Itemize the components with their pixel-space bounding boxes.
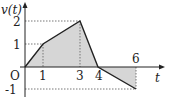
velocity-chart: v(t) t O 2 1 -1 1 3 4 6 <box>0 0 172 99</box>
x-axis-arrow-icon <box>159 65 165 70</box>
origin-label: O <box>10 69 20 83</box>
x-axis-label: t <box>155 71 160 85</box>
x-tick-1: 1 <box>39 69 47 83</box>
y-axis-arrow-icon <box>23 2 28 8</box>
x-tick-3: 3 <box>76 69 84 83</box>
y-tick-2: 2 <box>13 15 21 29</box>
x-tick-4: 4 <box>95 69 103 83</box>
positive-area <box>25 21 98 67</box>
x-tick-6: 6 <box>132 52 140 66</box>
y-tick-1: 1 <box>13 38 21 52</box>
y-tick-neg1: -1 <box>5 83 17 97</box>
